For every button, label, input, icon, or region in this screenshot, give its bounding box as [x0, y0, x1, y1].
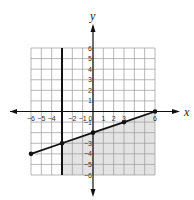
x-axis-arrow-left-icon [10, 109, 17, 114]
data-point [29, 152, 34, 157]
data-point [60, 141, 65, 146]
x-tick-label: 3 [122, 115, 126, 122]
x-tick-label: −4 [48, 115, 56, 122]
y-tick-label: −4 [84, 150, 92, 157]
y-axis-label: y [89, 9, 96, 23]
x-tick-label: −5 [37, 115, 45, 122]
y-tick-label: −3 [84, 140, 92, 147]
y-tick-label: 4 [88, 66, 92, 73]
y-tick-label: −5 [84, 161, 92, 168]
x-axis-arrow-right-icon [172, 109, 180, 114]
x-tick-label: 6 [153, 115, 157, 122]
x-tick-label: −2 [68, 115, 76, 122]
x-tick-label: 2 [112, 115, 116, 122]
data-point [153, 109, 158, 114]
x-tick-label: 1 [101, 115, 105, 122]
y-tick-label: 6 [88, 45, 92, 52]
data-point [91, 130, 96, 135]
y-tick-label: 5 [88, 55, 92, 62]
x-axis-label: x [183, 105, 190, 119]
y-tick-label: 1 [88, 97, 92, 104]
coordinate-plane: −6−5−4−2−101236654321−1−3−4−5−6xy [0, 0, 194, 200]
x-tick-label: −6 [27, 115, 35, 122]
y-axis-arrow-down-icon [91, 189, 96, 197]
y-tick-label: 2 [88, 87, 92, 94]
y-tick-label: −1 [84, 119, 92, 126]
y-axis-arrow-up-icon [91, 24, 96, 32]
y-tick-label: −6 [84, 172, 92, 179]
y-tick-label: 3 [88, 76, 92, 83]
